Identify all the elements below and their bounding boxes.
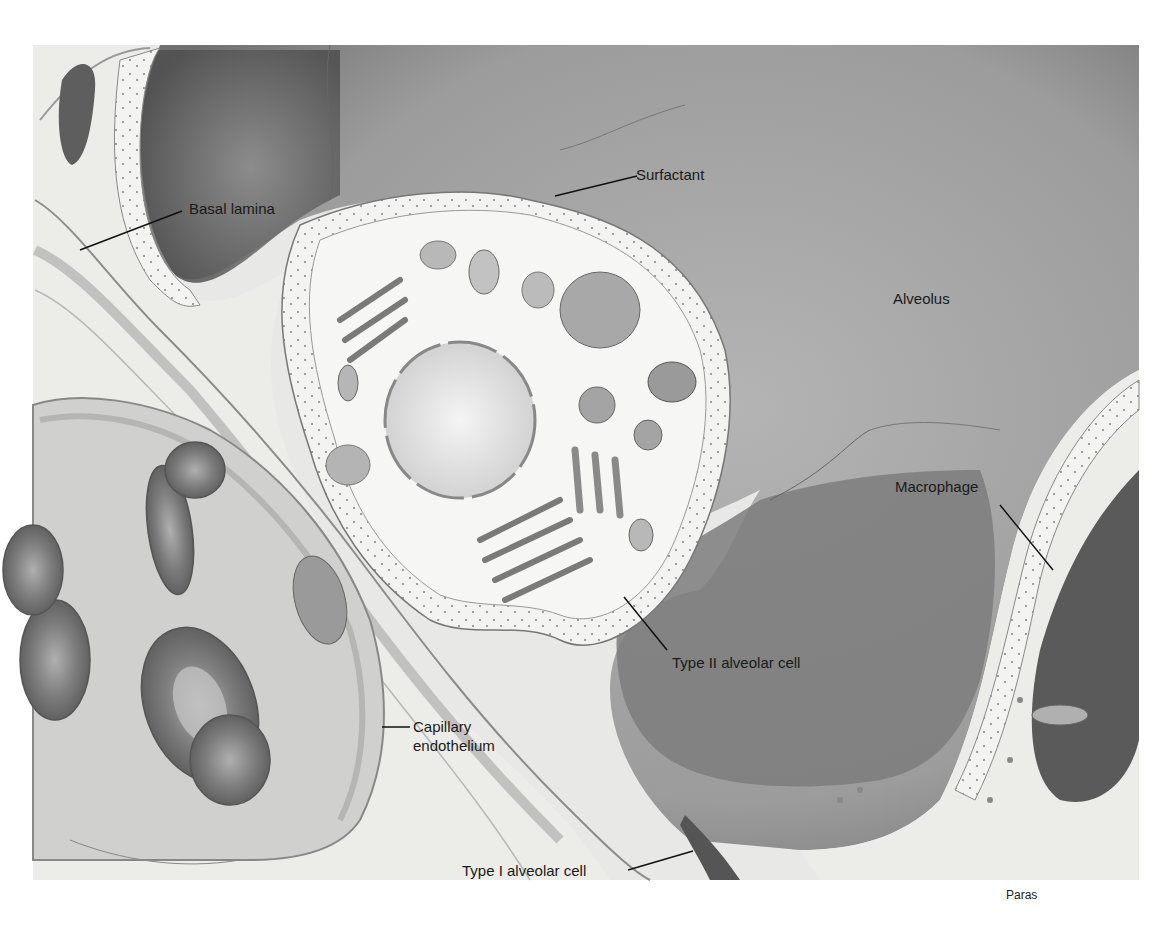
label-alveolus: Alveolus [893,290,950,308]
label-surfactant: Surfactant [636,166,704,184]
label-type2-alveolar-cell: Type II alveolar cell [672,654,800,672]
illustration [0,0,1169,927]
label-endothelium: endothelium [413,737,495,755]
label-macrophage: Macrophage [895,478,978,496]
label-capillary: Capillary [413,718,471,736]
label-basal-lamina: Basal lamina [189,200,275,218]
label-type1-alveolar-cell: Type I alveolar cell [462,862,586,880]
artist-credit: Paras [1006,888,1037,902]
